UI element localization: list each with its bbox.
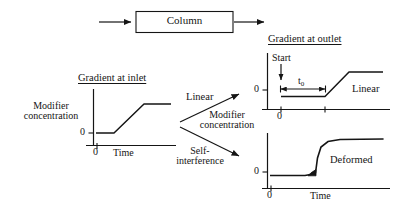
inlet-x-zero-tick-label: 0: [93, 147, 98, 157]
outlet-deformed-x-axis-label: Time: [310, 191, 331, 201]
inlet-x-axis-label: Time: [113, 148, 134, 158]
figure-canvas: Column Gradient at outlet Gradient at in…: [0, 0, 396, 210]
deformed-curve-baseline: [270, 171, 315, 176]
outlet-group-heading: Gradient at outlet: [268, 34, 341, 45]
inlet-plot-axes: [86, 89, 176, 149]
transition-modifier-concentration-label: Modifier concentration: [187, 110, 267, 130]
inlet-y-axis-label-line2: concentration: [12, 111, 90, 121]
outlet-start-label: Start: [272, 53, 291, 63]
outlet-linear-y-zero-label: 0: [254, 84, 259, 94]
inlet-plot-heading: Gradient at inlet: [78, 73, 146, 84]
outlet-t0-subscript: 0: [301, 80, 305, 88]
outlet-deformed-y-zero-label: 0: [254, 166, 259, 176]
outlet-deformed-curve-label: Deformed: [330, 155, 373, 166]
inlet-y-axis-label: Modifier concentration: [12, 101, 90, 121]
transition-self-line2: interference: [162, 156, 238, 166]
column-label: Column: [136, 15, 233, 26]
transition-linear-label: Linear: [186, 92, 213, 103]
transition-self-interference-label: Self- interference: [162, 146, 238, 166]
transition-modifier-line2: concentration: [187, 120, 267, 130]
outlet-deformed-x-zero-label: 0: [267, 190, 272, 200]
inlet-y-zero-tick-label: 0: [80, 127, 85, 137]
outlet-t0-label: t0: [298, 76, 304, 88]
inlet-gradient-curve: [96, 104, 171, 133]
outlet-linear-x-zero-label: 0: [277, 111, 282, 121]
outlet-linear-curve-label: Linear: [352, 84, 379, 95]
